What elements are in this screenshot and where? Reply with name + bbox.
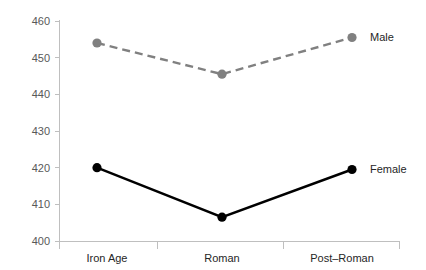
male-data-point — [217, 70, 226, 79]
line-chart: 460 450 440 430 420 410 400 Iron Age Rom… — [0, 0, 426, 270]
chart-canvas: 460 450 440 430 420 410 400 Iron Age Rom… — [0, 0, 426, 270]
series-label-female: Female — [370, 163, 407, 175]
x-axis-category-labels: Iron Age Roman Post–Roman — [87, 252, 374, 264]
male-line — [97, 38, 352, 75]
series-female: Female — [92, 163, 406, 222]
male-data-point — [92, 38, 101, 47]
y-tick-label-410: 410 — [32, 198, 50, 210]
y-tick-label-460: 460 — [32, 15, 50, 27]
x-category-label-2: Post–Roman — [310, 252, 374, 264]
y-tick-label-400: 400 — [32, 235, 50, 247]
y-tick-label-420: 420 — [32, 162, 50, 174]
series-male: Male — [92, 31, 393, 79]
female-data-point — [347, 165, 356, 174]
x-category-label-1: Roman — [204, 252, 239, 264]
y-axis-tick-labels: 460 450 440 430 420 410 400 — [32, 15, 50, 247]
y-tick-label-440: 440 — [32, 88, 50, 100]
x-axis-ticks — [60, 242, 400, 250]
y-tick-label-450: 450 — [32, 52, 50, 64]
x-category-label-0: Iron Age — [87, 252, 128, 264]
series-label-male: Male — [370, 31, 394, 43]
male-data-point — [347, 33, 356, 42]
y-tick-label-430: 430 — [32, 125, 50, 137]
female-data-point — [217, 213, 226, 222]
y-axis-ticks — [55, 21, 60, 241]
female-data-point — [92, 163, 101, 172]
female-line — [97, 168, 352, 218]
